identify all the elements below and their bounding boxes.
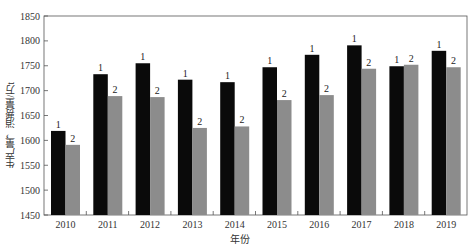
bar-series-1 <box>347 45 362 215</box>
x-tick-label: 2010 <box>56 219 76 230</box>
bar-series-1 <box>263 67 278 215</box>
bar-series-2 <box>446 67 461 215</box>
bar-series-1 <box>305 55 320 215</box>
bar-label: 1 <box>436 39 441 50</box>
y-tick-label: 1850 <box>20 11 40 22</box>
bar-series-1 <box>432 51 447 215</box>
bar-label: 1 <box>267 55 272 66</box>
y-tick-label: 1450 <box>20 210 40 221</box>
bar-label: 1 <box>183 68 188 79</box>
x-tick-label: 2015 <box>267 219 287 230</box>
y-tick-label: 1500 <box>20 185 40 196</box>
bar-series-2 <box>404 65 419 215</box>
x-tick-label: 2017 <box>352 219 372 230</box>
bar-series-1 <box>389 66 404 215</box>
bar-label: 1 <box>98 62 103 73</box>
x-tick-label: 2018 <box>394 219 414 230</box>
bar-series-2 <box>362 69 377 215</box>
bar-label: 2 <box>451 55 456 66</box>
x-tick-label: 2013 <box>182 219 202 230</box>
bar-label: 1 <box>225 70 230 81</box>
y-tick-label: 1800 <box>20 35 40 46</box>
bar-label: 1 <box>352 33 357 44</box>
bars: 12121212121212121212 <box>51 33 461 215</box>
bar-label: 1 <box>140 51 145 62</box>
bar-chart: 145015001550160016501700175018001850 121… <box>0 0 474 250</box>
y-tick-label: 1650 <box>20 110 40 121</box>
bar-label: 1 <box>310 43 315 54</box>
bar-label: 2 <box>197 116 202 127</box>
bar-label: 1 <box>394 54 399 65</box>
bar-label: 2 <box>155 85 160 96</box>
bar-label: 2 <box>113 84 118 95</box>
bar-series-2 <box>277 100 292 215</box>
bar-label: 1 <box>56 119 61 130</box>
y-axis-label-wrap: 生产量，消费量/万t <box>3 60 17 190</box>
y-tick-label: 1550 <box>20 160 40 171</box>
bar-label: 2 <box>239 114 244 125</box>
bar-series-1 <box>220 82 235 215</box>
x-tick-label: 2011 <box>98 219 118 230</box>
x-axis-label: 年份 <box>230 231 250 246</box>
bar-series-1 <box>178 80 193 215</box>
y-tick-label: 1750 <box>20 60 40 71</box>
bar-series-1 <box>93 74 108 215</box>
bar-label: 2 <box>282 88 287 99</box>
bar-series-2 <box>108 96 123 215</box>
x-tick-label: 2012 <box>140 219 160 230</box>
x-tick-label: 2014 <box>225 219 245 230</box>
bar-series-2 <box>235 126 250 215</box>
y-tick-label: 1700 <box>20 85 40 96</box>
bar-series-1 <box>51 131 66 215</box>
x-tick-label: 2016 <box>309 219 329 230</box>
x-tick-label: 2019 <box>436 219 456 230</box>
bar-label: 2 <box>409 53 414 64</box>
y-tick-label: 1600 <box>20 135 40 146</box>
bar-label: 2 <box>70 133 75 144</box>
bar-series-2 <box>66 145 81 215</box>
bar-series-2 <box>319 95 334 215</box>
bar-label: 2 <box>324 83 329 94</box>
bar-series-2 <box>150 97 165 215</box>
bar-series-1 <box>136 63 151 215</box>
y-axis-label: 生产量，消费量/万t <box>3 82 18 168</box>
bar-series-2 <box>192 128 207 215</box>
bar-label: 2 <box>366 57 371 68</box>
